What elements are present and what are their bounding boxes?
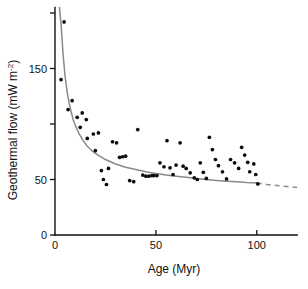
data-point [211, 148, 215, 152]
x-tick-label-100: 100 [248, 239, 266, 251]
data-point [184, 167, 188, 171]
data-point [237, 167, 241, 171]
data-point [221, 170, 225, 174]
data-point [91, 132, 95, 136]
data-point [208, 135, 212, 139]
data-point [75, 115, 79, 119]
data-point [78, 125, 82, 129]
data-point [165, 139, 169, 143]
data-point [94, 149, 98, 153]
data-point [85, 137, 89, 141]
chart-figure: 050150 050100 Age (Myr) Geothermal flow … [0, 0, 308, 289]
y-tick-label-50: 50 [35, 174, 47, 186]
y-tick-label-0: 0 [41, 229, 47, 241]
data-point [205, 177, 209, 181]
data-point [62, 20, 66, 24]
data-point [174, 163, 178, 167]
y-axis-tick-labels: 050150 [29, 63, 47, 242]
y-axis-title: Geothermal flow (mW m-2) [6, 60, 20, 200]
data-point [155, 174, 159, 178]
data-point [214, 158, 218, 162]
data-point [254, 173, 258, 177]
data-point [66, 108, 70, 112]
data-point [243, 153, 247, 157]
x-tick-label-50: 50 [150, 239, 162, 251]
data-point [181, 164, 185, 168]
axes-group [55, 7, 297, 235]
data-point [115, 141, 119, 145]
data-point [217, 164, 221, 168]
data-point [80, 111, 84, 115]
model-curve-group [59, 7, 297, 187]
data-point [168, 166, 172, 170]
data-point [70, 99, 74, 103]
data-point [229, 158, 233, 162]
data-point [198, 161, 202, 165]
y-axis-title-group: Geothermal flow (mW m-2) [6, 60, 20, 200]
x-axis-ticks [156, 230, 257, 235]
x-axis-title: Age (Myr) [148, 262, 201, 276]
data-point [132, 180, 136, 184]
data-point [128, 179, 132, 183]
data-point [252, 162, 256, 166]
data-point [195, 178, 199, 182]
y-tick-label-150: 150 [29, 63, 47, 75]
data-point [102, 178, 106, 182]
data-point [97, 131, 101, 135]
data-point [201, 170, 205, 174]
geothermal-flow-scatter-chart: 050150 050100 Age (Myr) Geothermal flow … [0, 0, 308, 289]
data-point [162, 165, 166, 169]
y-axis-ticks [50, 13, 55, 235]
data-point [84, 118, 88, 122]
data-point [248, 170, 252, 174]
cooling-model-curve-solid [59, 7, 256, 183]
data-point [188, 171, 192, 175]
data-point [158, 161, 162, 165]
x-tick-label-0: 0 [52, 239, 58, 251]
data-point [225, 177, 229, 181]
data-point [171, 173, 175, 177]
data-point [124, 154, 128, 158]
scatter-points-group [59, 20, 259, 186]
cooling-model-curve-dashed [257, 183, 297, 187]
data-point [246, 160, 250, 164]
data-point [233, 161, 237, 165]
data-point [178, 141, 182, 145]
data-point [100, 169, 104, 173]
data-point [136, 128, 140, 132]
data-point [107, 167, 111, 171]
data-point [105, 183, 109, 187]
data-point [240, 145, 244, 149]
data-point [256, 182, 260, 186]
data-point [111, 140, 115, 144]
x-axis-tick-labels: 050100 [52, 239, 266, 251]
data-point [59, 78, 63, 82]
